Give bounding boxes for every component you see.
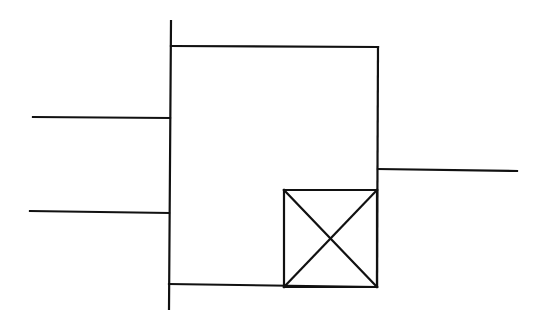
block-diagram: Logic/block symbol: a rectangular block … xyxy=(0,0,543,329)
block-top-edge xyxy=(171,46,378,47)
crossed-box-icon xyxy=(284,190,377,287)
output-line xyxy=(378,169,517,171)
input-bus-bar xyxy=(169,21,171,309)
input-line-2 xyxy=(30,211,169,213)
diagram-svg xyxy=(0,0,543,329)
input-line-1 xyxy=(33,117,170,118)
